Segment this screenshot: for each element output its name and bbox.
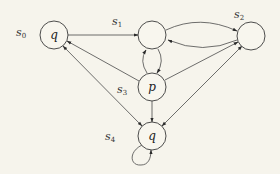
edge-s2-s4 — [162, 46, 242, 126]
state-s2 — [237, 22, 265, 50]
state-s4-prop: q — [148, 129, 156, 143]
state-s4: q — [138, 122, 166, 150]
edge-s0-s4 — [63, 46, 142, 126]
edge-s1-s3 — [157, 49, 161, 73]
state-label-s4: s4 — [105, 130, 116, 144]
state-label-s1: s1 — [112, 15, 122, 29]
state-s3-prop: p — [148, 80, 156, 94]
state-s3: p — [138, 73, 166, 101]
edge-s3-s1 — [143, 50, 147, 73]
state-label-s3: s3 — [117, 83, 127, 97]
state-s0-prop: q — [50, 28, 58, 42]
edge-s2-s1 — [168, 40, 237, 48]
state-s1 — [138, 21, 166, 49]
state-label-s0: s0 — [16, 26, 26, 40]
edge-s1-s2 — [166, 22, 237, 31]
state-s0: q — [40, 21, 68, 49]
state-transition-diagram: q p q s0 s1 s2 s3 s4 — [0, 0, 280, 174]
state-label-s2: s2 — [234, 8, 244, 22]
